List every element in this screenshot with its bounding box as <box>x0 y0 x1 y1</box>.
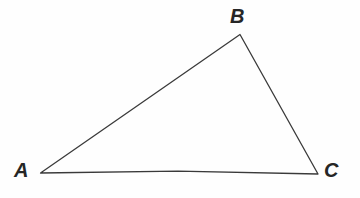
vertex-label-a: A <box>14 160 28 180</box>
triangle-diagram <box>0 0 360 198</box>
vertex-label-c: C <box>324 160 338 180</box>
triangle-figure: A B C <box>0 0 360 198</box>
vertex-label-b: B <box>230 6 244 26</box>
triangle-outline-path <box>41 35 319 175</box>
